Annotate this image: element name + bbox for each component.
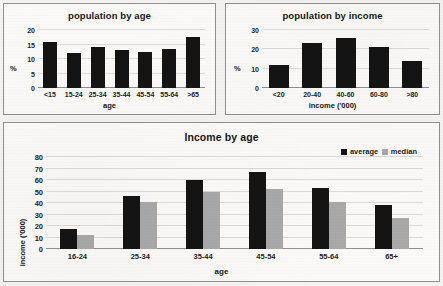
y-axis-tick: 80 (35, 153, 46, 162)
y-axis-tick: 10 (27, 56, 38, 63)
bar-median (77, 235, 94, 249)
x-axis-tick: 35-44 (172, 252, 235, 261)
y-axis-tick: 60 (35, 176, 46, 185)
bar-value (369, 47, 389, 88)
y-axis-tick: 20 (27, 27, 38, 34)
x-axis-label-population-by-income: income ('000) (226, 101, 439, 110)
bar-category-slot: 45-54 (133, 30, 157, 88)
bar-average (312, 188, 329, 249)
plot-area-income-by-age: 0102030405060708016-2425-3435-4445-5455-… (46, 157, 423, 249)
bar-median (329, 202, 346, 249)
chart-title-income-by-age: Income by age (4, 131, 439, 143)
legend-item-median: median (382, 147, 417, 156)
x-axis-tick: 65+ (360, 252, 423, 261)
chart-legend-income-by-age: average median (341, 147, 417, 156)
bar-median (392, 218, 409, 249)
x-axis-tick: 35-44 (110, 91, 134, 98)
x-axis-tick: <20 (262, 91, 295, 98)
bar-category-slot: 65+ (360, 157, 423, 249)
x-axis-tick: 60-80 (362, 91, 395, 98)
bar-category-slot: <15 (38, 30, 62, 88)
y-axis-tick: 50 (35, 187, 46, 196)
bar-average (375, 205, 392, 249)
plot-area-population-by-income: 0102030<2020-4040-6060-80>80 (262, 30, 429, 88)
bar-median (203, 192, 220, 249)
bar-median (266, 189, 283, 249)
bar-value (336, 38, 356, 88)
x-axis-tick: 15-24 (62, 91, 86, 98)
chart-panel-population-by-age: population by age % 05101520<1515-2425-3… (3, 3, 216, 115)
y-axis-tick: 10 (35, 233, 46, 242)
x-axis-tick: >80 (396, 91, 429, 98)
bar-category-slot: 25-34 (109, 157, 172, 249)
x-axis-label-income-by-age: age (4, 267, 439, 276)
bar-category-slot: 35-44 (172, 157, 235, 249)
bar-group-container: 16-2425-3435-4445-5455-6465+ (46, 157, 423, 249)
bar-category-slot: 45-54 (234, 157, 297, 249)
bar-category-slot: 15-24 (62, 30, 86, 88)
bar-category-slot: 20-40 (295, 30, 328, 88)
y-axis-tick: 0 (31, 85, 38, 92)
x-axis-label-population-by-age: age (4, 101, 215, 110)
bar-category-slot: >65 (181, 30, 205, 88)
bar-value (402, 61, 422, 88)
legend-swatch-median-icon (382, 149, 388, 155)
bar-group-container: <1515-2425-3435-4445-5455-64>65 (38, 30, 205, 88)
bar-average (249, 172, 266, 249)
legend-item-average: average (341, 147, 378, 156)
x-axis-tick: 16-24 (46, 252, 109, 261)
bar-value (138, 52, 152, 88)
x-axis-tick: 25-34 (109, 252, 172, 261)
bar-category-slot: 16-24 (46, 157, 109, 249)
bar-average (186, 180, 203, 249)
bar-value (43, 42, 57, 88)
y-axis-label-population-by-income: % (234, 64, 241, 73)
bar-category-slot: 25-34 (86, 30, 110, 88)
bar-category-slot: 55-64 (157, 30, 181, 88)
y-axis-tick: 10 (251, 65, 262, 72)
x-axis-tick: <15 (38, 91, 62, 98)
bar-group-container: <2020-4040-6060-80>80 (262, 30, 429, 88)
y-axis-label-population-by-age: % (10, 64, 17, 73)
chart-title-population-by-income: population by income (226, 10, 439, 21)
x-axis-tick: 40-60 (329, 91, 362, 98)
chart-panel-population-by-income: population by income % 0102030<2020-4040… (225, 3, 440, 115)
bar-value (115, 50, 129, 88)
plot-area-population-by-age: 05101520<1515-2425-3435-4445-5455-64>65 (38, 30, 205, 88)
legend-label-median: median (391, 147, 417, 156)
bar-average (123, 196, 140, 249)
y-axis-tick: 0 (255, 85, 262, 92)
bar-category-slot: 40-60 (329, 30, 362, 88)
bar-median (140, 202, 157, 249)
y-axis-tick: 70 (35, 164, 46, 173)
x-axis-tick: 55-64 (297, 252, 360, 261)
x-axis-tick: 20-40 (295, 91, 328, 98)
bar-value (269, 65, 289, 88)
bar-value (186, 37, 200, 88)
y-axis-tick: 5 (31, 70, 38, 77)
bar-category-slot: >80 (396, 30, 429, 88)
x-axis-tick: 25-34 (86, 91, 110, 98)
bar-value (91, 47, 105, 88)
x-axis-tick: >65 (181, 91, 205, 98)
x-axis-tick: 55-64 (157, 91, 181, 98)
bar-average (60, 229, 77, 249)
chart-panel-income-by-age: Income by age average median income ('00… (3, 122, 440, 282)
chart-title-population-by-age: population by age (4, 10, 215, 21)
legend-swatch-average-icon (341, 149, 347, 155)
x-axis-tick: 45-54 (133, 91, 157, 98)
y-axis-label-income-by-age: income ('000) (18, 213, 27, 273)
bar-category-slot: 60-80 (362, 30, 395, 88)
y-axis-tick: 20 (35, 222, 46, 231)
y-axis-tick: 15 (27, 41, 38, 48)
bar-category-slot: 55-64 (297, 157, 360, 249)
y-axis-tick: 30 (251, 27, 262, 34)
bar-value (302, 43, 322, 88)
bar-category-slot: 35-44 (110, 30, 134, 88)
y-axis-tick: 20 (251, 46, 262, 53)
y-axis-tick: 30 (35, 210, 46, 219)
y-axis-tick: 0 (39, 245, 46, 254)
y-axis-tick: 40 (35, 199, 46, 208)
bar-category-slot: <20 (262, 30, 295, 88)
bar-value (67, 53, 81, 88)
